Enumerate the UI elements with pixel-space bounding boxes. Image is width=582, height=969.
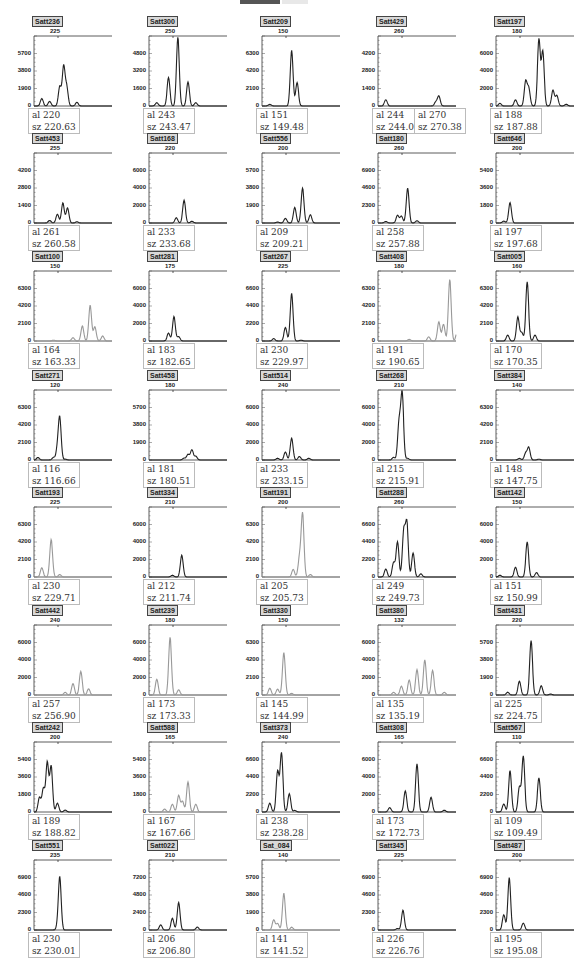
marker-label: Satt556 — [260, 133, 291, 144]
allele-label: al 195 — [494, 933, 538, 945]
allele-call-box: al 197sz 197.68 — [490, 225, 542, 251]
allele-label: al 233 — [147, 226, 191, 238]
y-tick-label: 6000 — [471, 521, 493, 527]
y-tick-label: 1900 — [471, 674, 493, 680]
allele-label: al 135 — [376, 698, 420, 710]
marker-panel: Satt3301500210042006300 al 145sz 144.99 — [236, 605, 346, 723]
y-tick-label: 2100 — [471, 320, 493, 326]
allele-label: al 270 — [418, 109, 462, 121]
allele-label: al 151 — [494, 580, 538, 592]
y-tick-label: 1900 — [9, 85, 31, 91]
marker-label: Satt168 — [147, 133, 178, 144]
size-label: sz 206.80 — [147, 945, 191, 957]
size-label: sz 170.35 — [494, 356, 538, 368]
y-tick-label: 4200 — [237, 656, 259, 662]
allele-label: al 258 — [376, 226, 420, 238]
size-label: sz 147.75 — [494, 475, 538, 487]
x-tick-label: 255 — [50, 145, 60, 151]
trace-plot — [149, 625, 227, 695]
trace-plot — [34, 36, 112, 106]
y-tick-label: 4000 — [237, 421, 259, 427]
allele-call-box: al 233sz 233.68 — [143, 225, 195, 251]
y-tick-label: 4200 — [9, 421, 31, 427]
marker-label: Satt271 — [32, 370, 63, 381]
allele-call-box: al 226sz 226.76 — [372, 932, 424, 958]
size-label: sz 211.74 — [147, 592, 191, 604]
allele-call-box: al 191sz 190.65 — [372, 343, 424, 369]
electropherogram-grid: Satt2362250190038005700 al 220sz 220.63S… — [0, 0, 582, 969]
marker-panel: Satt5881650180036005400 al 167sz 167.66 — [123, 722, 233, 840]
marker-label: Satt267 — [260, 251, 291, 262]
marker-label: Satt551 — [32, 840, 63, 851]
size-label: sz 144.99 — [260, 710, 304, 722]
y-tick-label: 5400 — [9, 756, 31, 762]
x-tick-label: 120 — [50, 382, 60, 388]
size-label: sz 230.01 — [32, 945, 76, 957]
marker-label: Satt334 — [147, 487, 178, 498]
marker-label: Satt022 — [147, 840, 178, 851]
y-tick-label: 4000 — [471, 67, 493, 73]
x-tick-label: 210 — [165, 499, 175, 505]
allele-label: al 233 — [260, 463, 304, 475]
y-tick-label: 4200 — [471, 302, 493, 308]
y-tick-label: 6000 — [124, 639, 146, 645]
marker-panel: Satt2672250220044006600 al 230sz 229.97 — [236, 251, 346, 369]
y-tick-label: 6900 — [9, 874, 31, 880]
marker-panel: Satt2362250190038005700 al 220sz 220.63 — [8, 16, 118, 134]
y-tick-label: 4200 — [353, 302, 375, 308]
allele-call-box: al 220sz 220.63 — [28, 108, 80, 134]
y-tick-label: 4200 — [9, 538, 31, 544]
marker-panel: Satt3841400210042006300 al 148sz 147.75 — [470, 370, 580, 488]
size-label: sz 195.08 — [494, 945, 538, 957]
trace-plot — [262, 742, 340, 812]
allele-call-box: al 212sz 211.74 — [143, 579, 195, 605]
x-tick-label: 210 — [394, 382, 404, 388]
x-tick-label: 110 — [512, 734, 522, 740]
trace-plot — [496, 271, 574, 341]
y-tick-label: 4000 — [353, 421, 375, 427]
trace-plot — [149, 153, 227, 223]
marker-panel: Satt6462000180036005400 al 197sz 197.68 — [470, 133, 580, 251]
x-tick-label: 225 — [50, 28, 60, 34]
trace-plot — [34, 742, 112, 812]
y-tick-label: 2200 — [353, 556, 375, 562]
size-label: sz 238.28 — [260, 827, 304, 839]
allele-label: al 151 — [260, 109, 304, 121]
allele-call-box: al 167sz 167.66 — [143, 814, 195, 840]
allele-label: al 167 — [147, 815, 191, 827]
y-tick-label: 3600 — [9, 773, 31, 779]
trace-plot — [149, 36, 227, 106]
marker-panel: Satt4081800210042006300 al 191sz 190.65 — [352, 251, 462, 369]
allele-call-box: al 170sz 170.35 — [490, 343, 542, 369]
allele-label: al 116 — [32, 463, 76, 475]
y-tick-label: 4800 — [124, 891, 146, 897]
marker-panel: Satt2391800200040006000 al 173sz 173.33 — [123, 605, 233, 723]
y-tick-label: 2000 — [124, 674, 146, 680]
marker-panel: Satt1682200200040006000 al 233sz 233.68 — [123, 133, 233, 251]
allele-label: al 205 — [260, 580, 304, 592]
allele-call-box: al 195sz 195.08 — [490, 932, 542, 958]
trace-plot — [262, 625, 340, 695]
y-tick-label: 2200 — [471, 791, 493, 797]
x-tick-label: 165 — [394, 734, 404, 740]
marker-panel: Sat_0841400190038005700 al 141sz 141.52 — [236, 840, 346, 958]
y-tick-label: 2200 — [237, 320, 259, 326]
marker-panel: Satt4872000230046006900 al 195sz 195.08 — [470, 840, 580, 958]
x-tick-label: 180 — [394, 263, 404, 269]
y-tick-label: 6300 — [353, 285, 375, 291]
y-tick-label: 1400 — [353, 85, 375, 91]
trace-plot — [378, 271, 456, 341]
trace-plot — [496, 390, 574, 460]
y-tick-label: 2200 — [237, 791, 259, 797]
y-tick-label: 6600 — [237, 756, 259, 762]
y-tick-label: 2800 — [9, 184, 31, 190]
marker-panel: Satt3342100200040006000 al 212sz 211.74 — [123, 487, 233, 605]
allele-label: al 181 — [147, 463, 191, 475]
marker-panel: Satt1932250210042006300 al 230sz 229.71 — [8, 487, 118, 605]
trace-plot — [378, 860, 456, 930]
trace-plot — [496, 36, 574, 106]
allele-call-box: al 215sz 215.91 — [372, 462, 424, 488]
size-label: sz 229.97 — [260, 356, 304, 368]
allele-label: al 141 — [260, 933, 304, 945]
allele-label: al 197 — [494, 226, 538, 238]
